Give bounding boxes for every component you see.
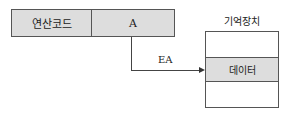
- memory-title: 기억장치: [205, 13, 279, 28]
- memory-block: 데이터: [205, 31, 279, 108]
- memory-row-data: 데이터: [206, 57, 278, 82]
- effective-address-label: EA: [158, 54, 173, 65]
- address-field: A: [92, 10, 174, 36]
- instruction-format: 연산코드 A: [11, 9, 175, 37]
- opcode-field: 연산코드: [12, 10, 92, 36]
- connector-vertical-line: [131, 37, 132, 71]
- connector-horizontal-line: [131, 70, 201, 71]
- memory-row-empty-top: [206, 32, 278, 58]
- memory-row-empty-bottom: [206, 82, 278, 108]
